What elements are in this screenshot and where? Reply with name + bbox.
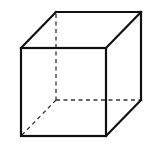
edge-top-left-depth [21, 12, 56, 48]
edge-top-right-depth [106, 12, 141, 48]
hidden-edge-bottom-left-depth [22, 100, 56, 135]
cube-drawing [0, 0, 153, 151]
cube-diagram [0, 0, 153, 151]
edge-bottom-right-depth [106, 100, 141, 136]
